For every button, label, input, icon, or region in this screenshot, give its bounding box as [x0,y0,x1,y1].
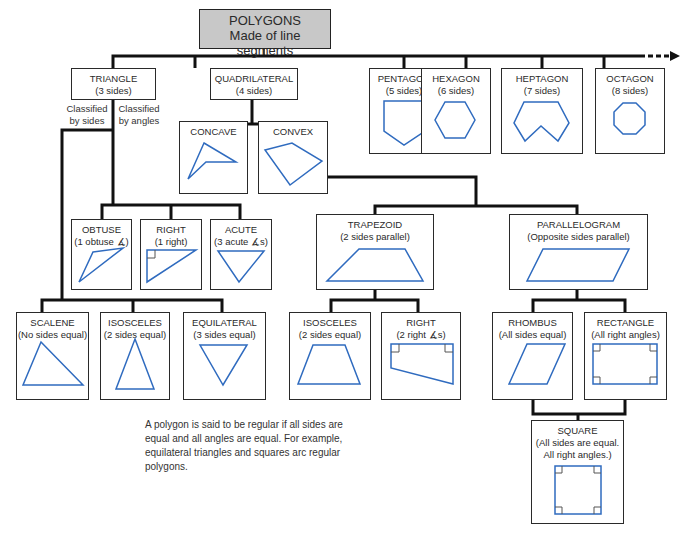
label-line: Classified [64,103,110,115]
acute-triangle-shape-icon [210,219,272,290]
root-title: POLYGONS [200,13,330,28]
rhombus-shape-icon [492,312,573,400]
root-subtitle: Made of line segments [200,28,330,58]
equilateral-triangle-shape-icon [183,312,266,400]
node-subtitle: (4 sides) [211,85,297,97]
node-title: TRIANGLE [72,73,155,85]
isosceles-triangle-shape-icon [100,312,170,400]
right-triangle-shape-icon [140,219,202,290]
node-title: QUADRILATERAL [211,73,297,85]
label-line: by sides [64,115,110,127]
label-line: by angles [116,115,162,127]
parallelogram-shape-icon [509,214,648,290]
trapezoid-shape-icon [316,214,434,290]
obtuse-triangle-shape-icon [71,219,132,290]
regular-polygon-note: A polygon is said to be regular if all s… [145,418,345,474]
root-node-polygons: POLYGONS Made of line segments [199,9,331,49]
right-trapezoid-shape-icon [381,312,461,400]
node-triangle: TRIANGLE (3 sides) [71,68,156,100]
label-classified-by-angles: Classified by angles [116,103,162,127]
node-quadrilateral: QUADRILATERAL (4 sides) [210,68,298,100]
isosceles-trapezoid-shape-icon [289,312,371,400]
concave-quad-shape-icon [179,121,248,194]
convex-quad-shape-icon [258,121,328,194]
rectangle-shape-icon [584,312,667,400]
label-line: Classified [116,103,162,115]
heptagon-shape-icon [501,68,583,154]
label-classified-by-sides: Classified by sides [64,103,110,127]
square-shape-icon [531,420,624,524]
octagon-shape-icon [595,68,665,154]
node-subtitle: (3 sides) [72,85,155,97]
scalene-triangle-shape-icon [16,312,89,400]
hexagon-shape-icon [421,68,491,154]
